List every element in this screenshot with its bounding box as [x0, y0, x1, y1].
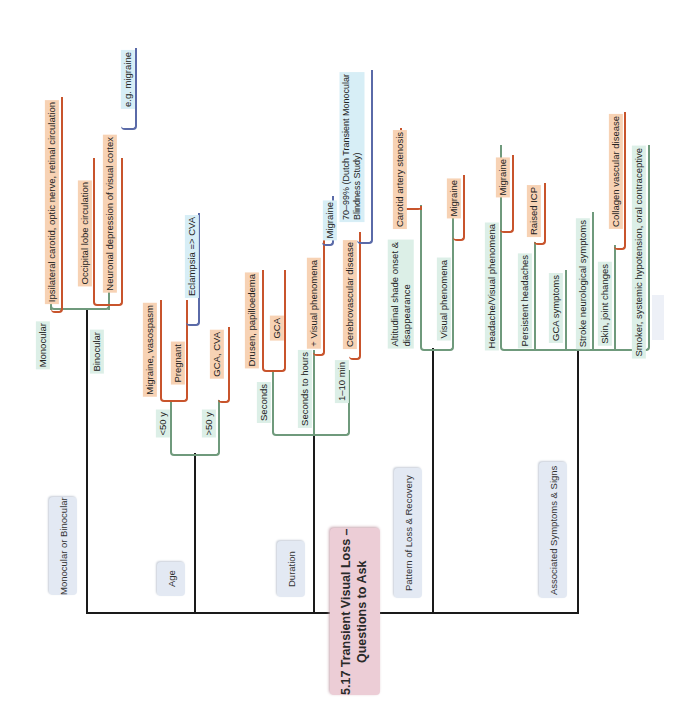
- label-over-50: >50 y: [202, 410, 216, 438]
- category-age[interactable]: Age: [157, 562, 185, 596]
- cause-migraine-pattern: Migraine: [447, 178, 461, 218]
- label-skin-joint: Skin, joint changes: [598, 262, 612, 346]
- cause-gca-duration: GCA: [270, 316, 284, 341]
- branch-carotid-top: [420, 206, 422, 210]
- label-altitudinal: Altitudinal shade onset &disappearance: [388, 240, 414, 349]
- branch-persistent: [534, 242, 536, 350]
- cause-migraine-associated: Migraine: [496, 157, 510, 197]
- category-pattern[interactable]: Pattern of Loss & Recovery: [394, 468, 422, 598]
- label-gca-symptoms: GCA symptoms: [549, 273, 563, 343]
- spine-age: [194, 453, 196, 613]
- title-line1: 5.17 Transient Visual Loss –: [339, 528, 353, 695]
- label-persistent-headaches: Persistent headaches: [518, 253, 532, 348]
- category-duration[interactable]: Duration: [277, 541, 305, 597]
- spine-pattern: [432, 348, 434, 613]
- label-visual-phenomena: Visual phenomena: [437, 258, 451, 341]
- label-seconds-to-hours: Seconds to hours: [298, 350, 312, 428]
- branch-skin: [614, 245, 616, 350]
- cause-raised-icp: Raised ICP: [527, 185, 541, 237]
- label-under-50: <50 y: [156, 410, 170, 438]
- cause-drusen: Drusen, papilloedema: [245, 272, 259, 368]
- cause-visual-phenomena: + Visual phenomena: [307, 258, 321, 349]
- category-monocular-binocular[interactable]: Monocular or Binocular: [49, 497, 77, 595]
- label-headache-visual: Headache/Visual phenomena: [485, 222, 499, 350]
- label-smoker: Smoker, systemic hypotension, oral contr…: [632, 146, 646, 359]
- note-migraine-duration: Migraine: [323, 200, 337, 240]
- branch-stroke: [592, 212, 594, 350]
- cause-occipital: Occipital lobe circulation: [78, 180, 92, 286]
- label-pregnant: Pregnant: [171, 342, 185, 385]
- cause-ipsilateral: Ipsilateral carotid, optic nerve, retina…: [45, 100, 59, 304]
- category-associated[interactable]: Associated Symptoms & Signs: [539, 462, 567, 598]
- label-monocular: Monocular: [36, 321, 50, 369]
- note-dutch-study: 70–99% (Dutch Transient MonocularBlindne…: [340, 72, 365, 222]
- cause-cerebrovascular: Cerebrovascular disease: [343, 240, 357, 349]
- cause-collagen: Collagen vascular disease: [609, 114, 623, 229]
- example-migraine: e.g. migraine: [121, 50, 135, 109]
- spine-monocular: [86, 308, 88, 614]
- label-seconds: Seconds: [257, 382, 271, 423]
- title-node: 5.17 Transient Visual Loss –Questions to…: [330, 528, 380, 695]
- faint-box: [652, 295, 664, 340]
- note-eclampsia: Eclampsia => CVA: [185, 215, 199, 298]
- label-1-10-min: 1–10 min: [335, 360, 349, 403]
- cause-carotid-stenosis: Carotid artery stenosis: [393, 130, 407, 229]
- cause-neuronal-depression: Neuronal depression of visual cortex: [103, 135, 117, 293]
- title-line2: Questions to Ask: [355, 560, 369, 662]
- spine-associated: [577, 348, 579, 613]
- branch-seconds-to-hours: [313, 350, 315, 436]
- spine-duration: [313, 433, 315, 613]
- label-stroke-symptoms: Stroke neurological symptoms: [576, 218, 590, 349]
- cause-gca-cva: GCA, CVA: [210, 330, 224, 379]
- cause-migraine-vasospasm: Migraine, vasospasm: [143, 303, 157, 397]
- label-binocular: Binocular: [90, 330, 104, 374]
- branch-gca-symptoms: [565, 270, 567, 350]
